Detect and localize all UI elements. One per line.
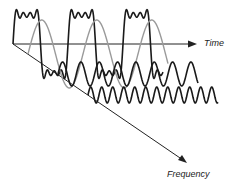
harmonic-3-wave <box>58 62 198 86</box>
frequency-arrowhead <box>178 155 187 163</box>
frequency-axis <box>13 44 183 160</box>
time-axis-label: Time <box>204 38 224 48</box>
time-frequency-diagram <box>0 0 237 183</box>
time-arrowhead <box>188 41 197 48</box>
frequency-axis-label: Frequency <box>167 169 210 179</box>
harmonic-5-wave <box>88 87 218 103</box>
